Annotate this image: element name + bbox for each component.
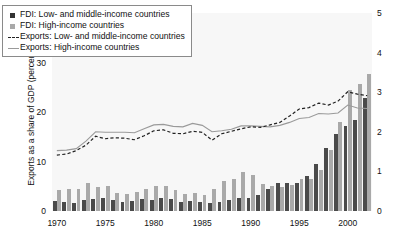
- x-tick: 1985: [182, 218, 222, 228]
- y-tick-right: 1: [377, 166, 399, 176]
- y-tick-left: 10: [24, 157, 46, 167]
- y-tick-right: 0: [377, 206, 399, 216]
- chart-legend: FDI: Low- and middle-income countries FD…: [2, 5, 192, 57]
- y-tick-right: 2: [377, 127, 399, 137]
- y-tick-left: 0: [24, 206, 46, 216]
- x-tick: 1980: [134, 218, 174, 228]
- y-tick-right: 5: [377, 8, 399, 18]
- x-tick: 1975: [85, 218, 125, 228]
- exports-high-income-line: [57, 105, 367, 151]
- legend-label: Exports: Low- and middle-income countrie…: [20, 31, 185, 42]
- x-tick: 1970: [37, 218, 77, 228]
- y-tick-right: 4: [377, 48, 399, 58]
- solid-line-icon: [7, 39, 19, 57]
- legend-label: FDI: Low- and middle-income countries: [20, 9, 170, 20]
- chart-figure: Exports as a share of GDP (percent) FDI …: [0, 0, 408, 252]
- y-tick-left: 30: [24, 58, 46, 68]
- x-tick: 1995: [279, 218, 319, 228]
- y-tick-left: 20: [24, 107, 46, 117]
- x-tick: 1990: [231, 218, 271, 228]
- legend-item-exports-low-middle: Exports: Low- and middle-income countrie…: [7, 31, 185, 42]
- y-tick-right: 3: [377, 87, 399, 97]
- figure-footnote: [6, 243, 402, 251]
- legend-item-fdi-high: FDI: High-income countries: [7, 20, 185, 31]
- legend-label: Exports: High-income countries: [20, 42, 139, 53]
- legend-item-fdi-low-middle: FDI: Low- and middle-income countries: [7, 9, 185, 20]
- exports-low-middle-income-line: [57, 92, 367, 155]
- legend-label: FDI: High-income countries: [20, 20, 124, 31]
- legend-item-exports-high: Exports: High-income countries: [7, 42, 185, 53]
- x-tick: 2000: [328, 218, 368, 228]
